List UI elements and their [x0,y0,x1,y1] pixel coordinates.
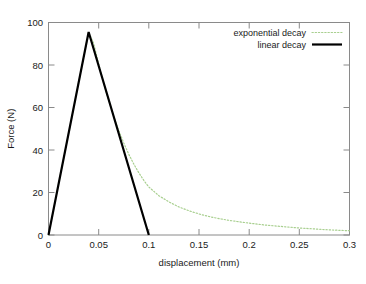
chart-figure: 100 80 60 40 20 0 0 0.05 0.1 0.15 0.2 0.… [0,0,366,284]
y-axis-title: Force (N) [5,109,16,149]
y-tick-label: 60 [32,102,43,113]
x-tick-label: 0.1 [142,239,155,250]
y-tick-label: 20 [32,187,43,198]
y-tick-label: 80 [32,60,43,71]
x-tick-label: 0.25 [290,239,309,250]
x-axis-title: displacement (mm) [159,257,240,268]
plot-background [0,0,366,284]
force-displacement-plot: 100 80 60 40 20 0 0 0.05 0.1 0.15 0.2 0.… [0,0,366,284]
y-tick-label: 100 [27,17,43,28]
legend-label-exponential-decay: exponential decay [233,28,306,38]
x-tick-label: 0.2 [243,239,256,250]
legend-label-linear-decay: linear decay [257,40,306,50]
x-tick-label: 0 [46,239,51,250]
x-tick-label: 0.05 [89,239,108,250]
y-tick-label: 40 [32,145,43,156]
y-tick-label: 0 [38,230,43,241]
x-tick-label: 0.3 [343,239,356,250]
x-tick-label: 0.15 [190,239,209,250]
